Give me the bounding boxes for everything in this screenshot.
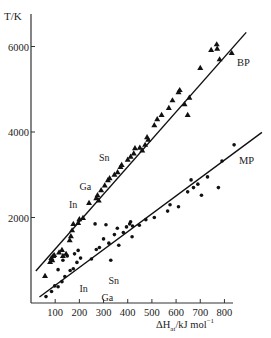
mp-point xyxy=(220,159,224,163)
x-tick-label: 600 xyxy=(168,307,184,318)
mp-point xyxy=(117,243,121,247)
bp-point xyxy=(214,41,220,46)
bp-point xyxy=(94,192,100,197)
y-axis-label: T/K xyxy=(4,10,22,22)
bp-point xyxy=(185,112,191,117)
x-label-exp: −1 xyxy=(207,317,215,325)
mp-point xyxy=(200,193,204,197)
mp-point xyxy=(79,256,83,260)
mp-point xyxy=(72,267,76,271)
bp-point xyxy=(131,150,137,155)
bp-point xyxy=(42,273,48,278)
mp-point xyxy=(138,223,142,227)
mp-point xyxy=(129,220,133,224)
bp-point xyxy=(119,162,125,167)
mp-point xyxy=(144,218,148,222)
bp-point xyxy=(169,97,175,102)
mp-point xyxy=(102,237,106,241)
mp-point xyxy=(168,203,172,207)
y-tick-label: 2000 xyxy=(8,213,29,224)
mp-point xyxy=(122,231,126,235)
mp-point xyxy=(76,249,80,253)
mp-point xyxy=(56,285,60,289)
annotation-in-bp: In xyxy=(69,199,77,210)
mp-point xyxy=(125,225,129,229)
mp-point xyxy=(73,252,77,256)
bp-point xyxy=(166,105,172,110)
mp-point xyxy=(94,248,98,252)
x-label-main: ΔH xyxy=(156,319,171,330)
bp-point xyxy=(182,101,188,106)
chart: T/K ΔHat/kJ mol−1 1002003004005006007008… xyxy=(0,0,271,338)
mp-point xyxy=(206,175,210,179)
y-tick-label: 6000 xyxy=(8,42,29,53)
bp-point xyxy=(217,56,223,61)
bp-point xyxy=(159,112,165,117)
bp-point xyxy=(115,169,121,174)
fit-line-mp xyxy=(39,132,261,297)
mp-point xyxy=(90,257,94,261)
bp-point xyxy=(144,134,150,139)
bp-point xyxy=(86,200,92,205)
bp-point xyxy=(197,65,203,70)
annotation-ga-mp: Ga xyxy=(101,292,113,303)
mp-point xyxy=(130,235,134,239)
bp-point xyxy=(208,47,214,52)
fit-lines xyxy=(36,32,262,297)
x-tick-label: 800 xyxy=(217,307,233,318)
x-tick-label: 700 xyxy=(192,307,208,318)
x-tick-label: 200 xyxy=(71,307,87,318)
x-axis-label: ΔHat/kJ mol−1 xyxy=(156,317,215,333)
x-label-rest: /kJ mol xyxy=(175,319,206,330)
annotation-ga-bp: Ga xyxy=(79,181,91,192)
bp-point xyxy=(59,247,65,252)
annotation-in-mp: In xyxy=(79,283,87,294)
mp-point xyxy=(153,216,157,220)
x-tick-label: 500 xyxy=(144,307,160,318)
mp-point xyxy=(192,186,196,190)
bp-point xyxy=(107,175,113,180)
mp-point xyxy=(98,246,102,250)
annotation-sn-bp: Sn xyxy=(99,152,110,163)
x-tick-label: 100 xyxy=(47,307,63,318)
bp-point xyxy=(70,221,76,226)
mp-point xyxy=(104,223,108,227)
mp-point xyxy=(196,182,200,186)
bp-point xyxy=(102,182,108,187)
bp-point xyxy=(98,187,104,192)
mp-point xyxy=(116,226,120,230)
mp-point xyxy=(107,241,111,245)
mp-point xyxy=(50,290,54,294)
series-label-mp: MP xyxy=(239,155,254,166)
mp-point xyxy=(60,280,64,284)
mp-point xyxy=(93,222,97,226)
mp-point xyxy=(63,275,67,279)
mp-point xyxy=(113,233,117,237)
mp-point xyxy=(75,261,79,265)
series-label-bp: BP xyxy=(237,57,250,68)
mp-point xyxy=(177,205,181,209)
bp-point xyxy=(151,122,157,127)
mp-point xyxy=(61,258,65,262)
mp-point xyxy=(68,269,72,273)
mp-point xyxy=(53,284,57,288)
bp-point xyxy=(177,87,183,92)
mp-point xyxy=(109,258,113,262)
annotation-sn-mp: Sn xyxy=(109,275,120,286)
mp-point xyxy=(65,254,69,258)
mp-point xyxy=(166,209,170,213)
annotations: BPMPSnGaInSnInGa xyxy=(69,57,254,303)
mp-point xyxy=(232,143,236,147)
mp-point xyxy=(131,224,135,228)
x-tick-label: 400 xyxy=(120,307,136,318)
data-points xyxy=(42,41,236,298)
mp-point xyxy=(186,190,190,194)
mp-point xyxy=(217,186,221,190)
mp-point xyxy=(44,295,48,299)
mp-point xyxy=(189,178,193,182)
y-tick-label: 4000 xyxy=(8,127,29,138)
x-tick-label: 300 xyxy=(96,307,112,318)
mp-point xyxy=(56,268,60,272)
